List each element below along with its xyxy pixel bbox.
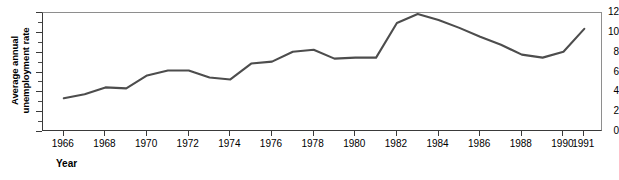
x-axis-title: Year [56,158,77,169]
y-axis-title: Average annual unemployment rate [10,4,31,138]
x-axis-tick-label: 1991 [558,138,608,149]
y-axis-tick-mark [36,131,42,132]
chart-figure: Average annual unemployment rate 0246810… [0,0,619,180]
series-line-unemployment-rate [43,13,603,132]
plot-area [42,12,602,131]
y-axis-title-container: Average annual unemployment rate [0,0,26,140]
